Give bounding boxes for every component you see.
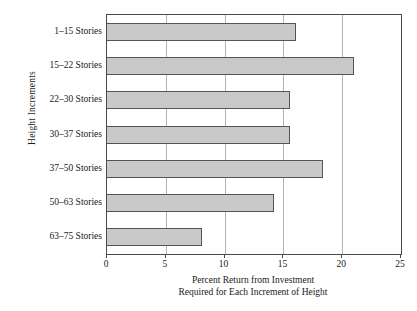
category-label: 50–63 Stories bbox=[20, 197, 102, 207]
x-axis-title-line-1: Percent Return from Investment bbox=[106, 274, 400, 286]
category-label: 1–15 Stories bbox=[20, 26, 102, 36]
x-axis-title: Percent Return from Investment Required … bbox=[106, 274, 400, 298]
category-axis-labels: 1–15 Stories15–22 Stories22–30 Stories30… bbox=[20, 14, 102, 253]
x-tick-label: 0 bbox=[91, 259, 121, 269]
x-axis-tick-labels: 0510152025 bbox=[106, 259, 400, 273]
category-label: 63–75 Stories bbox=[20, 231, 102, 241]
x-tick-label: 25 bbox=[385, 259, 415, 269]
bar bbox=[107, 228, 202, 246]
x-tick-25 bbox=[400, 254, 401, 258]
bar bbox=[107, 126, 290, 144]
x-tick-label: 5 bbox=[150, 259, 180, 269]
x-axis-title-line-2: Required for Each Increment of Height bbox=[106, 286, 400, 298]
category-label: 22–30 Stories bbox=[20, 94, 102, 104]
x-tick-20 bbox=[341, 254, 342, 258]
bar bbox=[107, 194, 274, 212]
bars-layer bbox=[107, 15, 401, 254]
bar-chart: Height Increments 1–15 Stories15–22 Stor… bbox=[0, 0, 417, 311]
bar bbox=[107, 23, 296, 41]
bar bbox=[107, 91, 290, 109]
x-tick-label: 10 bbox=[209, 259, 239, 269]
plot-area bbox=[106, 14, 402, 255]
x-tick-label: 20 bbox=[326, 259, 356, 269]
category-label: 15–22 Stories bbox=[20, 60, 102, 70]
x-tick-10 bbox=[224, 254, 225, 258]
x-tick-label: 15 bbox=[267, 259, 297, 269]
category-label: 30–37 Stories bbox=[20, 129, 102, 139]
category-label: 37–50 Stories bbox=[20, 163, 102, 173]
x-tick-5 bbox=[165, 254, 166, 258]
x-tick-0 bbox=[106, 254, 107, 258]
bar bbox=[107, 160, 323, 178]
bar bbox=[107, 57, 354, 75]
x-tick-15 bbox=[282, 254, 283, 258]
